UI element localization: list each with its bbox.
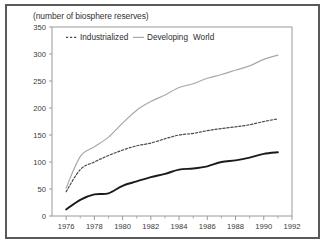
x-tick-label: 1982	[142, 222, 159, 231]
x-axis-ticks	[66, 216, 292, 220]
x-tick-label: 1980	[114, 222, 131, 231]
y-tick-label: 150	[33, 131, 46, 140]
x-tick-label: 1984	[171, 222, 188, 231]
y-tick-label: 250	[33, 77, 46, 86]
legend-label-developing: Developing	[147, 33, 188, 42]
y-tick-label: 50	[38, 185, 46, 194]
x-tick-label: 1976	[58, 222, 75, 231]
y-axis-tick-labels: 050100150200250300350	[33, 23, 46, 221]
legend-label-industrialized: Industrialized	[80, 33, 129, 42]
line-chart-plot: 050100150200250300350 197619781980198219…	[0, 0, 325, 244]
y-tick-label: 200	[33, 104, 46, 113]
legend-label-world: World	[193, 33, 215, 42]
y-tick-label: 0	[42, 212, 46, 221]
x-tick-label: 1990	[255, 222, 272, 231]
x-tick-label: 1992	[284, 222, 301, 231]
x-tick-label: 1978	[86, 222, 103, 231]
chart-figure: (number of biosphere reserves) 050100150…	[0, 0, 325, 244]
y-tick-label: 300	[33, 50, 46, 59]
plot-area-frame	[52, 27, 292, 216]
y-tick-label: 350	[33, 23, 46, 32]
x-tick-label: 1986	[199, 222, 216, 231]
y-tick-label: 100	[33, 158, 46, 167]
x-axis-tick-labels: 197619781980198219841986198819901992	[58, 222, 301, 231]
x-tick-label: 1988	[227, 222, 244, 231]
